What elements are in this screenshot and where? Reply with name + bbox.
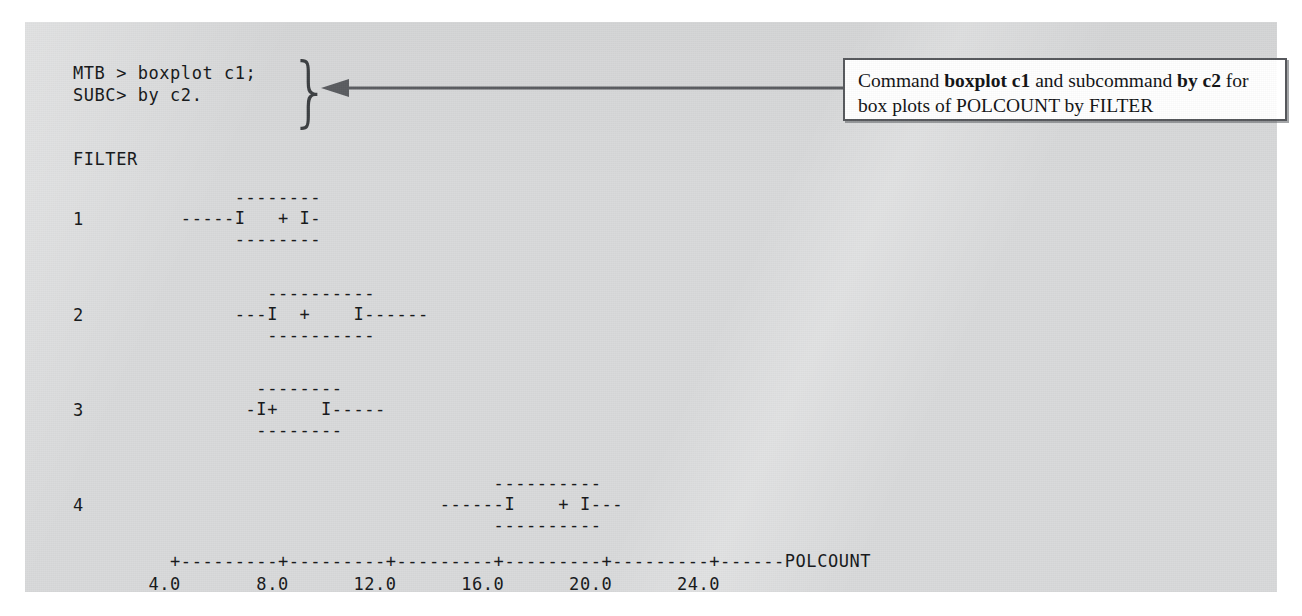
x-axis-line: +---------+---------+---------+---------…: [73, 551, 871, 571]
callout-line1-prefix: Command: [858, 70, 944, 91]
box-bottom-3: --------: [73, 420, 343, 440]
minitab-command-block: MTB > boxplot c1; SUBC> by c2.: [73, 62, 256, 106]
box-bottom-4: ----------: [73, 515, 601, 535]
callout-line1-suffix: for: [1221, 70, 1249, 91]
box-top-1: --------: [73, 187, 321, 207]
command-line-1: MTB > boxplot c1;: [73, 63, 256, 83]
callout-arrow-icon: [321, 75, 845, 101]
box-middle-4: ------I + I---: [73, 494, 623, 514]
x-axis-tick-labels: 4.0 8.0 12.0 16.0 20.0 24.0: [73, 574, 720, 594]
callout-text: Command boxplot c1 and subcommand by c2 …: [858, 68, 1277, 118]
boxplot-row-1: -------- -----I + I- --------: [73, 187, 321, 250]
callout-bold-by-c2: by c2: [1177, 70, 1221, 91]
scanned-page-panel: MTB > boxplot c1; SUBC> by c2. } FILTER …: [25, 22, 1277, 592]
filter-group-header: FILTER: [73, 148, 138, 170]
callout-bold-boxplot-c1: boxplot c1: [944, 70, 1030, 91]
box-bottom-2: ----------: [73, 325, 375, 345]
curly-brace-icon: }: [290, 52, 319, 134]
box-top-3: --------: [73, 378, 343, 398]
boxplot-row-4: ---------- ------I + I--- ----------: [73, 473, 623, 536]
box-top-4: ----------: [73, 473, 601, 493]
x-axis-block: +---------+---------+---------+---------…: [73, 550, 871, 596]
box-middle-2: ---I + I------: [73, 304, 429, 324]
box-top-2: ----------: [73, 283, 375, 303]
box-middle-3: -I+ I-----: [73, 399, 386, 419]
box-middle-1: -----I + I-: [73, 208, 321, 228]
boxplot-row-3: -------- -I+ I----- --------: [73, 378, 386, 441]
callout-box: Command boxplot c1 and subcommand by c2 …: [843, 58, 1287, 121]
callout-line2: box plots of POLCOUNT by FILTER: [858, 95, 1153, 116]
box-bottom-1: --------: [73, 229, 321, 249]
command-line-2: SUBC> by c2.: [73, 85, 202, 105]
boxplot-row-2: ---------- ---I + I------ ----------: [73, 283, 429, 346]
callout-line1-mid: and subcommand: [1030, 70, 1177, 91]
